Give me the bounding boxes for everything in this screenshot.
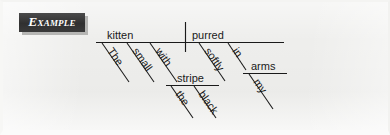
word-preposition-in: in — [230, 45, 245, 59]
word-verb-purred: purred — [192, 29, 224, 41]
word-modifier-the2: the — [173, 88, 192, 107]
word-subject-kitten: kitten — [107, 29, 133, 41]
word-modifier-my: my — [251, 76, 270, 95]
word-modifier-black: black — [196, 88, 221, 116]
word-modifier-softly: softly — [202, 45, 227, 73]
word-object-stripe: stripe — [177, 72, 204, 84]
word-modifier-the: The — [105, 45, 126, 67]
figure-panel: Example kitten purred The small with str… — [0, 0, 390, 135]
word-object-arms: arms — [251, 60, 276, 72]
sentence-diagram: kitten purred The small with stripe the … — [3, 2, 390, 135]
word-modifier-small: small — [130, 45, 155, 73]
word-preposition-with: with — [153, 44, 175, 68]
